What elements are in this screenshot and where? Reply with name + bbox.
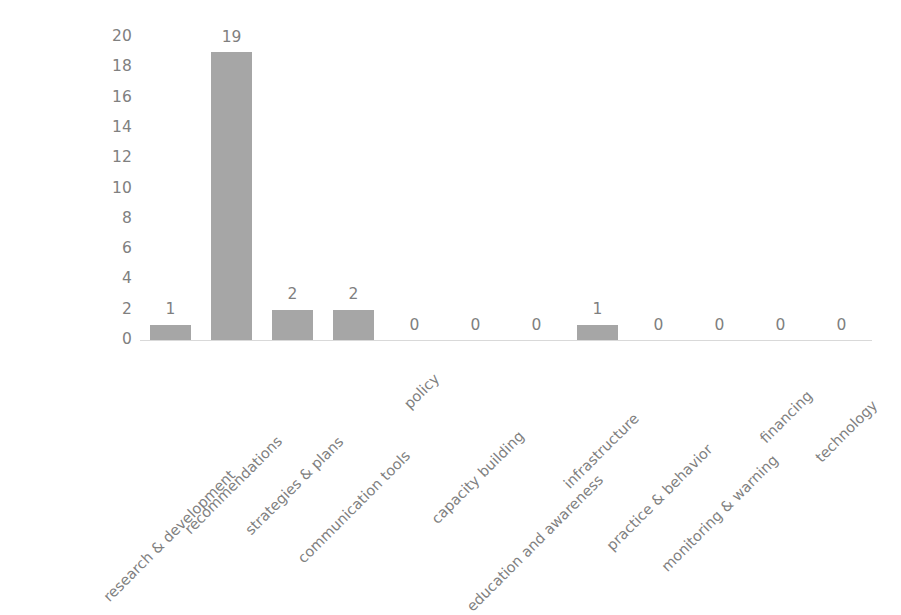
y-axis-tick-label: 2: [88, 302, 132, 318]
bar-item[interactable]: 0: [811, 37, 872, 340]
y-axis: 20181614121086420: [88, 37, 132, 340]
bar-item[interactable]: 0: [689, 37, 750, 340]
bar-series: 1192200010000: [140, 37, 872, 340]
bar-value-label: 1: [140, 302, 201, 318]
bar-value-label: 0: [506, 318, 567, 334]
bar-rect[interactable]: [211, 52, 252, 340]
bar-item[interactable]: 0: [384, 37, 445, 340]
y-axis-tick-label: 10: [88, 181, 132, 197]
y-axis-tick-label: 14: [88, 120, 132, 136]
category-label: capacity building: [428, 429, 526, 527]
bar-item[interactable]: 0: [445, 37, 506, 340]
bar-value-label: 0: [628, 318, 689, 334]
bar-value-label: 19: [201, 30, 262, 46]
x-axis-tick-label-text: capacity building: [512, 348, 610, 446]
x-axis-line: [140, 340, 872, 341]
bar-item[interactable]: 0: [506, 37, 567, 340]
y-axis-tick-label: 20: [88, 29, 132, 45]
bar-value-label: 0: [445, 318, 506, 334]
y-axis-tick-label: 8: [88, 211, 132, 227]
y-axis-tick-label: 12: [88, 150, 132, 166]
bar-value-label: 0: [750, 318, 811, 334]
x-axis-category-labels: research & developmentrecommendationsstr…: [140, 344, 872, 544]
y-axis-tick-label: 16: [88, 90, 132, 106]
bar-item[interactable]: 0: [628, 37, 689, 340]
bar-value-label: 2: [262, 287, 323, 303]
y-axis-tick-label: 18: [88, 60, 132, 76]
bar-item[interactable]: 1: [567, 37, 628, 340]
bar-rect[interactable]: [333, 310, 374, 340]
bar-value-label: 1: [567, 302, 628, 318]
bar-value-label: 2: [323, 287, 384, 303]
category-label: education and awareness: [464, 472, 606, 614]
bar-item[interactable]: 2: [262, 37, 323, 340]
y-axis-tick-label: 6: [88, 241, 132, 257]
y-axis-tick-label: 0: [88, 332, 132, 348]
bar-rect[interactable]: [150, 325, 191, 340]
x-axis-tick-label-text: policy: [427, 348, 468, 389]
y-axis-tick-label: 4: [88, 272, 132, 288]
bar-item[interactable]: 1: [140, 37, 201, 340]
bar-value-label: 0: [384, 318, 445, 334]
bar-item[interactable]: 2: [323, 37, 384, 340]
x-axis-tick-label-text: education and awareness: [591, 348, 733, 490]
bar-item[interactable]: 19: [201, 37, 262, 340]
bar-rect[interactable]: [577, 325, 618, 340]
bar-value-label: 0: [689, 318, 750, 334]
bar-value-label: 0: [811, 318, 872, 334]
bar-item[interactable]: 0: [750, 37, 811, 340]
bar-rect[interactable]: [272, 310, 313, 340]
